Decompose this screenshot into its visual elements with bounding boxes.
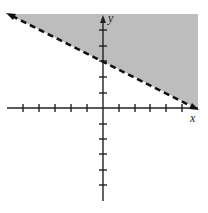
line-arrow-left-icon (6, 13, 16, 20)
x-axis-label: x (189, 111, 196, 125)
inequality-graph: y x (0, 0, 208, 213)
y-axis-label: y (107, 11, 114, 25)
